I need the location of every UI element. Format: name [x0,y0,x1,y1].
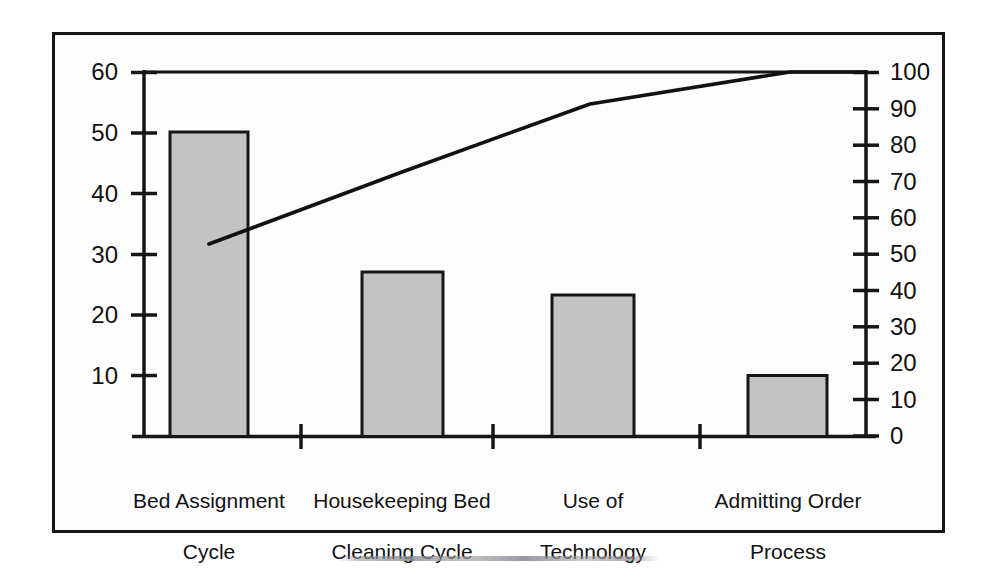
pareto-chart-figure: 60 50 40 30 20 10 100 90 80 70 60 50 40 … [0,0,993,572]
left-axis-tick-label-40: 40 [60,182,118,206]
chart-outer-frame [52,32,945,533]
left-axis-tick-label-10: 10 [60,364,118,388]
right-axis-tick-label-100: 100 [890,60,930,84]
category-label-line2: Process [668,539,908,565]
category-label-line1: Admitting Order [668,488,908,514]
right-axis-tick-label-80: 80 [890,133,917,157]
right-axis-tick-label-90: 90 [890,97,917,121]
left-axis-tick-label-60: 60 [60,60,118,84]
category-label-admitting-order-process: Admitting Order Process [668,462,908,572]
left-axis-tick-label-20: 20 [60,303,118,327]
left-axis-tick-label-50: 50 [60,121,118,145]
right-axis-tick-label-70: 70 [890,170,917,194]
right-axis-tick-label-60: 60 [890,206,917,230]
right-axis-tick-label-0: 0 [890,424,903,448]
right-axis-tick-label-30: 30 [890,315,917,339]
left-axis-tick-label-30: 30 [60,243,118,267]
right-axis-tick-label-10: 10 [890,388,917,412]
right-axis-tick-label-40: 40 [890,279,917,303]
scan-artifact-strip [338,556,660,561]
right-axis-tick-label-50: 50 [890,242,917,266]
right-axis-tick-label-20: 20 [890,351,917,375]
